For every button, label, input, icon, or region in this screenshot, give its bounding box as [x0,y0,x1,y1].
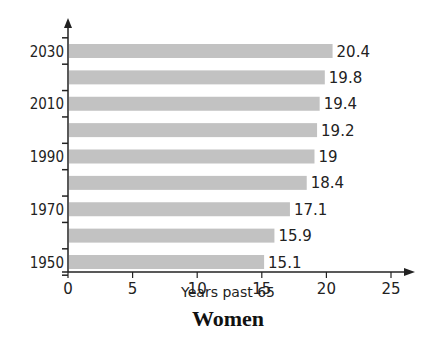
y-tick-label: 2010 [30,95,64,113]
bar-2000 [69,123,317,137]
x-axis-title: Years past 65 [180,284,275,300]
value-label-1960: 15.9 [278,227,311,245]
y-tick-label: 2030 [30,43,64,61]
bar-2020 [69,70,325,84]
x-tick-label: 0 [63,280,73,298]
x-tick-label: 5 [128,280,138,298]
y-tick-label: 1950 [30,254,64,272]
value-label-1990: 19 [318,148,337,166]
bar-1950 [69,255,264,269]
x-axis-arrow-icon [404,268,415,276]
y-tick-label: 1970 [30,201,64,219]
bar-1970 [69,202,290,216]
value-label-2030: 20.4 [337,43,370,61]
x-tick-label: 25 [381,280,400,298]
y-tick-label: 1990 [30,148,64,166]
bars-group: 15.115.917.118.41919.219.419.820.4 [69,43,370,272]
bar-2030 [69,44,333,58]
x-tick-label: 20 [317,280,336,298]
bar-2010 [69,97,320,111]
value-label-1950: 15.1 [268,254,301,272]
bar-1960 [69,229,274,243]
value-label-2000: 19.2 [321,122,354,140]
value-label-2010: 19.4 [324,95,357,113]
value-label-1980: 18.4 [311,174,344,192]
bar-1990 [69,150,314,164]
value-label-1970: 17.1 [294,201,327,219]
bar-chart: 15.115.917.118.41919.219.419.820.4 19501… [0,0,432,364]
bar-1980 [69,176,307,190]
value-label-2020: 19.8 [329,69,362,87]
chart-title: Women [192,306,264,331]
y-axis-arrow-icon [64,18,72,28]
